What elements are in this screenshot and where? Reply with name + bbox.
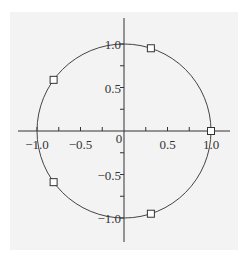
x-tick-label: 1.0 [203,137,219,152]
y-tick-label: 1.0 [105,37,121,52]
y-tick-label: −1.0 [97,211,121,226]
x-tick-label: −1.0 [25,137,49,152]
square-marker [147,210,154,217]
x-tick-label: 0.5 [159,137,175,152]
square-marker [50,179,57,186]
square-marker [147,45,154,52]
y-tick-label: −0.5 [97,168,121,183]
square-marker [50,76,57,83]
square-marker [208,128,215,135]
x-tick-label: −0.5 [69,137,93,152]
x-tick-label: 0 [116,131,123,146]
unit-circle-plot: −1.0−0.500.51.01.00.5−0.5−1.0 [0,0,247,261]
y-tick-label: 0.5 [105,81,121,96]
